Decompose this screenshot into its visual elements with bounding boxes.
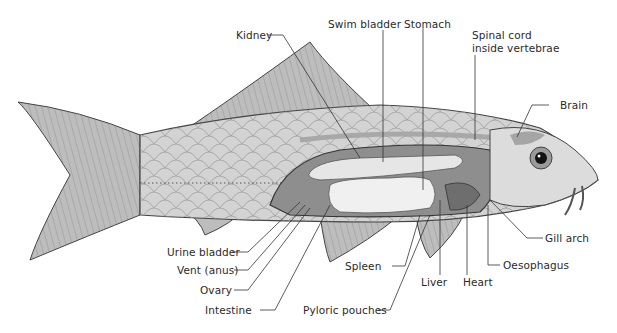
label-pyloric-pouches: Pyloric pouches bbox=[303, 304, 387, 316]
label-stomach: Stomach bbox=[404, 18, 451, 30]
label-liver: Liver bbox=[421, 276, 447, 288]
label-swim-bladder: Swim bladder bbox=[328, 18, 401, 30]
label-heart: Heart bbox=[463, 276, 493, 288]
label-ovary: Ovary bbox=[200, 284, 232, 296]
label-vent: Vent (anus) bbox=[177, 264, 238, 276]
label-spinal-cord-line2: inside vertebrae bbox=[472, 42, 559, 54]
label-oesophagus: Oesophagus bbox=[503, 259, 569, 271]
label-gill-arch: Gill arch bbox=[545, 232, 589, 244]
label-spleen: Spleen bbox=[345, 260, 381, 272]
fish-anatomy-diagram: Kidney Swim bladder Stomach Spinal cord … bbox=[0, 0, 617, 333]
label-kidney: Kidney bbox=[236, 29, 272, 41]
intestine bbox=[329, 177, 435, 213]
label-spinal-cord-line1: Spinal cord bbox=[472, 29, 532, 41]
label-intestine: Intestine bbox=[205, 304, 252, 316]
label-urine-bladder: Urine bladder bbox=[167, 246, 240, 258]
label-brain: Brain bbox=[560, 99, 588, 111]
